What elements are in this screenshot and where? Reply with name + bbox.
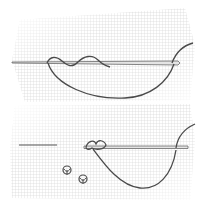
fabric-panel-bottom bbox=[10, 104, 195, 200]
needle-bottom bbox=[84, 146, 188, 149]
fabric-panel-top bbox=[12, 8, 195, 102]
stitch-illustration bbox=[0, 0, 206, 208]
illustration-svg bbox=[0, 0, 206, 208]
